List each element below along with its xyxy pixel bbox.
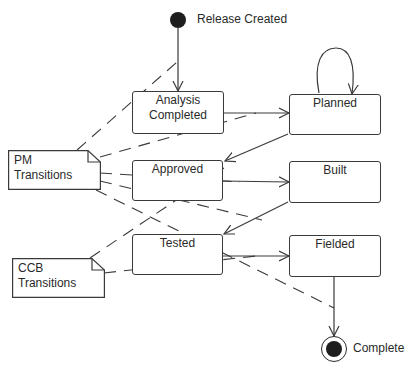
state-label: Built xyxy=(290,163,380,178)
initial-state-label: Release Created xyxy=(197,12,287,26)
state-approved[interactable]: Approved xyxy=(132,160,223,201)
transition-planned-self-loop xyxy=(317,48,353,94)
transition-planned-to-approved xyxy=(225,134,288,161)
state-analysis-completed[interactable]: Analysis Completed xyxy=(132,91,224,134)
state-tested[interactable]: Tested xyxy=(132,234,223,275)
state-label-line1: Analysis xyxy=(133,93,223,108)
transition-approved-to-built xyxy=(222,181,289,182)
note-line1: CCB xyxy=(18,261,105,276)
state-label: Fielded xyxy=(290,237,380,252)
note-ccb-transitions[interactable]: CCB Transitions xyxy=(12,258,105,298)
state-label: Approved xyxy=(133,162,222,177)
state-label: Tested xyxy=(133,236,222,251)
state-fielded[interactable]: Fielded xyxy=(289,235,381,277)
state-label-line2: Completed xyxy=(133,108,223,123)
note-line1: PM xyxy=(14,153,101,168)
final-state-label: Complete xyxy=(353,341,404,355)
note-line2: Transitions xyxy=(14,168,101,183)
final-state-inner-dot xyxy=(326,341,342,357)
state-planned[interactable]: Planned xyxy=(289,94,381,135)
state-label: Planned xyxy=(290,96,380,111)
note-line2: Transitions xyxy=(18,276,105,291)
state-built[interactable]: Built xyxy=(289,161,381,203)
initial-state-node[interactable] xyxy=(170,12,186,28)
note-pm-transitions[interactable]: PM Transitions xyxy=(8,150,101,190)
